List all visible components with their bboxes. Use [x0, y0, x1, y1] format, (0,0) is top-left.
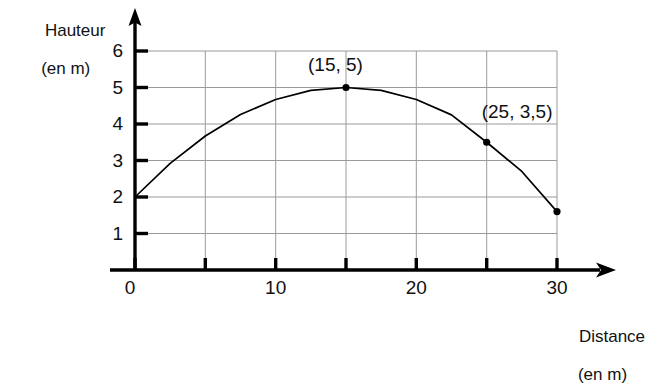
y-tick-label-6: 6	[101, 40, 123, 61]
x-tick-label-0: 0	[113, 277, 147, 298]
x-tick-label-10: 10	[259, 277, 293, 298]
y-tick-label-2: 2	[101, 186, 123, 207]
point-annotation: (25, 3,5)	[482, 101, 553, 122]
data-point-marker	[342, 84, 349, 91]
x-tick-label-30: 30	[540, 277, 574, 298]
y-tick-label-3: 3	[101, 150, 123, 171]
y-tick-label-4: 4	[101, 113, 123, 134]
y-axis	[129, 8, 142, 270]
x-axis-title-unit: (en m)	[560, 365, 645, 384]
x-axis-title-name: Distance	[579, 327, 645, 346]
x-axis-title: Distance (en m)	[560, 308, 645, 387]
y-tick-label-1: 1	[101, 223, 123, 244]
x-axis	[110, 263, 616, 278]
y-tick-label-5: 5	[101, 77, 123, 98]
x-axis-ticks	[135, 258, 557, 270]
point-annotation: (15, 5)	[308, 54, 363, 75]
y-axis-title-unit: (en m)	[26, 59, 105, 78]
y-axis-title-name: Hauteur	[45, 21, 105, 40]
y-axis-ticks	[135, 51, 148, 234]
data-point-marker	[483, 139, 490, 146]
x-tick-label-20: 20	[399, 277, 433, 298]
data-point-marker	[553, 208, 560, 215]
y-axis-title: Hauteur (en m)	[26, 2, 105, 116]
